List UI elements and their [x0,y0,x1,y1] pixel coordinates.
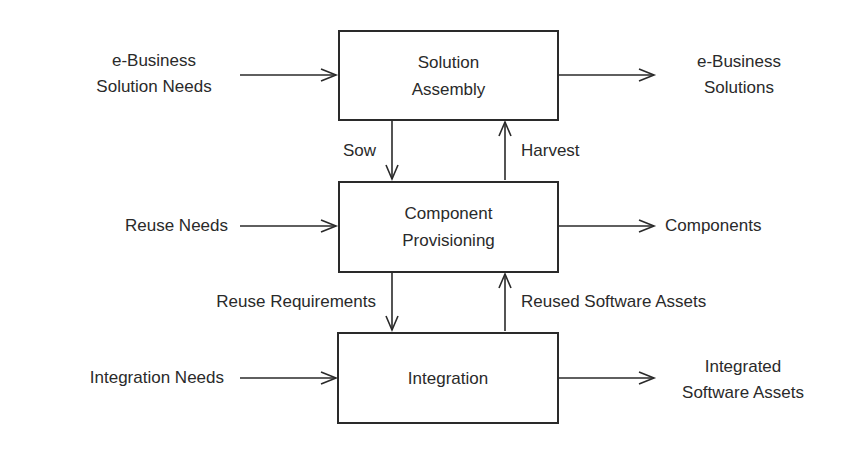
integration-box: Integration [337,332,559,424]
component-provisioning-label-1: Component [402,200,495,227]
arrow-output-component-provisioning [559,220,654,232]
arrow-input-integration [240,372,336,384]
input-label-integration-needs: Integration Needs [30,365,224,391]
output-label-line: Integrated [658,354,828,380]
output-label-ebusiness-solutions: e-Business Solutions [664,49,814,101]
flow-label-text: Reuse Requirements [216,292,376,311]
flow-label-text: Reused Software Assets [521,292,706,311]
flow-label-reuse-requirements: Reuse Requirements [160,289,376,315]
flow-label-sow: Sow [320,138,376,164]
arrow-input-solution-assembly [240,69,336,81]
arrow-reuse-requirements [386,273,398,330]
flow-label-reused-software-assets: Reused Software Assets [521,289,706,315]
flow-label-text: Sow [343,141,376,160]
input-label-solution-needs: e-Business Solution Needs [78,48,230,100]
arrow-sow [386,121,398,179]
output-label-line: Software Assets [658,380,828,406]
arrow-reused-software-assets [499,274,511,331]
solution-assembly-box: Solution Assembly [338,30,559,121]
solution-assembly-label-2: Assembly [412,76,486,103]
output-label-line: Solutions [664,75,814,101]
output-label-line: e-Business [664,49,814,75]
input-label-line: Solution Needs [78,74,230,100]
output-label-integrated-software-assets: Integrated Software Assets [658,354,828,406]
input-label-line: Integration Needs [90,368,224,387]
flow-label-text: Harvest [521,141,580,160]
arrow-output-solution-assembly [559,69,654,81]
arrow-output-integration [559,372,654,384]
solution-assembly-label-1: Solution [412,49,486,76]
output-label-line: Components [665,216,761,235]
component-provisioning-label-2: Provisioning [402,227,495,254]
component-provisioning-box: Component Provisioning [338,181,559,273]
integration-label: Integration [408,365,488,392]
flow-label-harvest: Harvest [521,138,580,164]
output-label-components: Components [665,213,761,239]
input-label-reuse-needs: Reuse Needs [80,213,228,239]
input-label-line: Reuse Needs [125,216,228,235]
arrow-harvest [499,122,511,180]
arrow-input-component-provisioning [240,220,336,232]
input-label-line: e-Business [78,48,230,74]
